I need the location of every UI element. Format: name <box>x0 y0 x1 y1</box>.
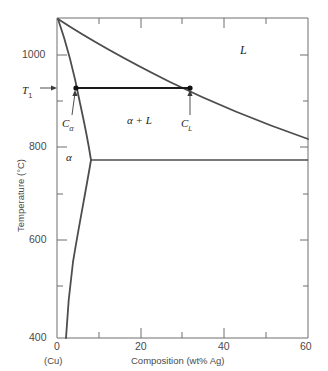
x-tick-marks <box>99 328 266 338</box>
phase-diagram-figure: 1000 800 600 400 0 20 40 60 (Cu) Tempera… <box>0 0 328 371</box>
leader-arrows <box>72 90 193 115</box>
y-tick-label-600: 600 <box>29 234 47 245</box>
x-tick-label-0: 0 <box>54 341 60 352</box>
x-origin-note: (Cu) <box>44 356 62 366</box>
y-tick-label-800: 800 <box>29 141 47 152</box>
c-alpha-label-subscript: α <box>69 124 73 133</box>
phase-diagram-plot <box>0 0 328 371</box>
y-tick-marks-right <box>300 55 308 286</box>
region-label-liquid: L <box>240 44 247 56</box>
x-axis-title: Composition (wt% Ag) <box>131 356 224 366</box>
t1-pointer-arrowhead <box>51 85 57 90</box>
axis-frame <box>57 18 308 338</box>
x-tick-label-60: 60 <box>300 341 312 352</box>
c-alpha-label: Cα <box>62 114 74 133</box>
c-liquid-label: CL <box>181 114 193 133</box>
y-tick-marks <box>57 55 67 286</box>
c-liquid-label-subscript: L <box>188 124 192 133</box>
x-tick-label-40: 40 <box>218 341 230 352</box>
x-tick-label-20: 20 <box>135 341 147 352</box>
solvus-curve <box>66 160 91 338</box>
region-label-alpha: α <box>66 152 72 163</box>
t1-pointer <box>40 85 57 90</box>
y-tick-label-1000: 1000 <box>22 49 45 60</box>
t1-label: T1 <box>22 81 32 100</box>
x-tick-marks-top <box>99 18 266 28</box>
y-tick-label-400: 400 <box>29 332 47 343</box>
c-alpha-leader <box>72 93 75 115</box>
c-alpha-point <box>73 85 78 90</box>
t1-label-subscript: 1 <box>28 91 32 100</box>
y-axis-title: Temperature (°C) <box>15 159 26 232</box>
region-label-alpha-plus-liquid: α + L <box>127 115 152 126</box>
c-liquid-point <box>187 85 192 90</box>
